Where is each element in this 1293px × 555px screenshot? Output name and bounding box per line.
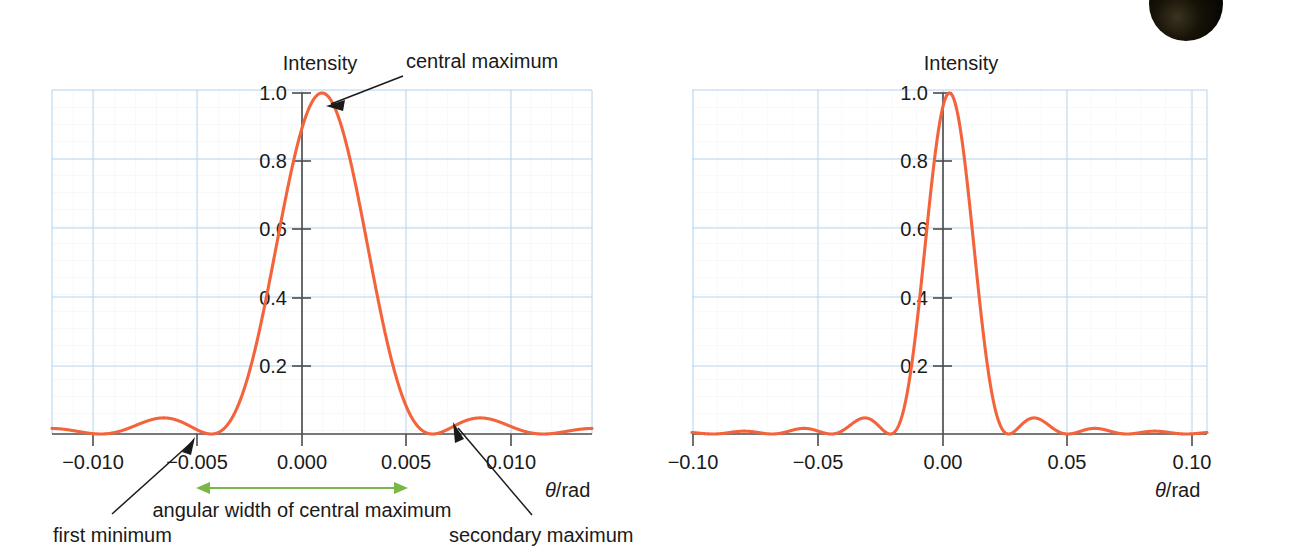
theta-unit-left: /rad [556,479,590,501]
y-tick-label-left-1.0: 1.0 [259,82,287,104]
x-ticks-right [693,434,1192,446]
x-tick-label-left-0: −0.010 [62,451,124,473]
annotation-first-minimum-label: first minimum [53,524,172,546]
x-tick-label-right-1: −0.05 [793,451,844,473]
x-axis-title-right: θ/rad [1155,479,1200,501]
diffraction-figure: −0.010 −0.005 0.000 0.005 0.010 1.0 0.8 … [0,0,1293,555]
y-tick-label-right-1.0: 1.0 [900,82,928,104]
annotation-angular-width-label: angular width of central maximum [152,499,451,521]
y-tick-label-right-0.4: 0.4 [900,287,928,309]
y-tick-label-right-0.8: 0.8 [900,150,928,172]
x-tick-label-right-4: 0.10 [1173,451,1212,473]
annotation-angular-width: angular width of central maximum [152,482,451,521]
plot-area-right [692,90,1207,434]
x-ticks-left [93,434,511,446]
x-tick-label-left-2: 0.000 [277,451,327,473]
charts-canvas: −0.010 −0.005 0.000 0.005 0.010 1.0 0.8 … [0,0,1293,555]
x-axis-title-left: θ/rad [545,479,590,501]
chart-left: −0.010 −0.005 0.000 0.005 0.010 1.0 0.8 … [52,50,634,546]
y-tick-label-right-0.6: 0.6 [900,218,928,240]
x-tick-label-left-3: 0.005 [381,451,431,473]
annotation-secondary-maximum-label: secondary maximum [449,524,634,546]
theta-symbol-left: θ [545,479,556,501]
theta-unit-right: /rad [1166,479,1200,501]
y-axis-title-left: Intensity [283,52,357,74]
x-tick-label-right-3: 0.05 [1048,451,1087,473]
y-tick-label-left-0.8: 0.8 [259,150,287,172]
y-tick-label-left-0.2: 0.2 [259,355,287,377]
annotation-secondary-maximum: secondary maximum [449,422,634,546]
theta-symbol-right: θ [1155,479,1166,501]
x-tick-label-left-1: −0.005 [166,451,228,473]
y-tick-label-left-0.6: 0.6 [259,218,287,240]
annotation-central-maximum-label: central maximum [406,50,558,72]
x-tick-label-right-0: −0.10 [668,451,719,473]
y-axis-title-right: Intensity [924,52,998,74]
chart-right: −0.10 −0.05 0.00 0.05 0.10 1.0 0.8 0.6 0… [668,52,1212,501]
x-tick-label-right-2: 0.00 [924,451,963,473]
